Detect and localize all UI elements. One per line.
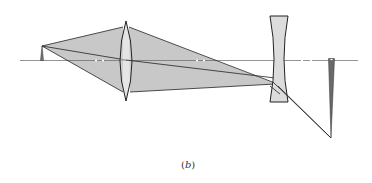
object-arrow — [41, 46, 44, 61]
image-arrow-base-highlight — [330, 59, 332, 61]
caption-close-paren: ) — [191, 159, 195, 170]
ray-bundle-lens-to-lens — [129, 27, 276, 92]
diverging-lens — [270, 16, 288, 102]
ray-diagram — [0, 0, 372, 183]
image-arrow — [329, 59, 335, 139]
figure-caption: (b) — [181, 159, 195, 170]
